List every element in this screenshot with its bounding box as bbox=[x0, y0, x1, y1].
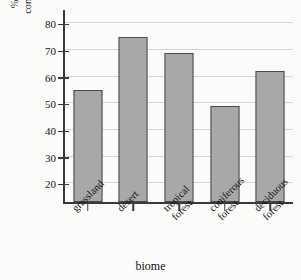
y-axis-tick-label: 20 bbox=[30, 179, 56, 190]
y-axis-tick-label: 60 bbox=[30, 73, 56, 84]
bar-slot bbox=[247, 10, 293, 202]
bar bbox=[119, 37, 148, 202]
bar-series bbox=[65, 10, 293, 202]
bar-slot bbox=[156, 10, 202, 202]
bar-slot bbox=[65, 10, 111, 202]
bar-chart-figure: % of ammonium converted to nitrate 20304… bbox=[0, 0, 301, 280]
y-axis-tick-label: 40 bbox=[30, 126, 56, 137]
y-axis-tick-label: 30 bbox=[30, 153, 56, 164]
bar bbox=[164, 53, 193, 202]
y-axis-title-line-1: % of ammonium bbox=[8, 0, 21, 14]
x-axis-title: biome bbox=[0, 259, 301, 274]
x-axis-category-labels: grasslanddeserttropicalforestconiferousf… bbox=[63, 206, 301, 260]
y-axis-tick-label: 50 bbox=[30, 99, 56, 110]
bar-slot bbox=[202, 10, 248, 202]
y-axis-tick-label: 80 bbox=[30, 19, 56, 30]
y-axis-title-line-2: converted to nitrate bbox=[21, 0, 34, 14]
bar-slot bbox=[111, 10, 157, 202]
chart-title bbox=[0, 0, 301, 2]
plot-area: 20304050607080 bbox=[63, 10, 293, 204]
y-axis-tick-label: 70 bbox=[30, 46, 56, 57]
